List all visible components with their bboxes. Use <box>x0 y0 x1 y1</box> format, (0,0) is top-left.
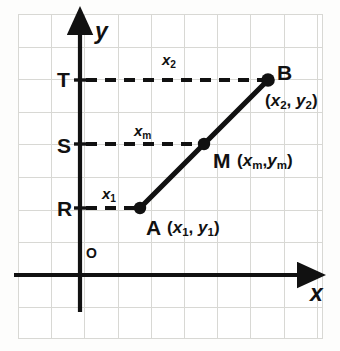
point-coords-M: (xm,ym) <box>237 152 293 169</box>
coordinate-geometry-figure: y x O T S R B M A (x2, y2) (xm,ym) (x1, … <box>0 0 340 351</box>
coord-x-sub: m <box>252 159 262 171</box>
coord-x-base: x <box>243 151 252 170</box>
dashed-label-sub: m <box>142 130 151 141</box>
dashed-run-label-x1: x1 <box>102 186 116 201</box>
y-tick-label-R: R <box>57 198 72 219</box>
y-axis-label: y <box>95 20 108 43</box>
point-label-A: A <box>146 217 161 238</box>
y-tick-label-S: S <box>57 135 71 156</box>
point-A <box>134 202 146 214</box>
coord-y-base: y <box>267 151 276 170</box>
y-tick-label-T: T <box>57 69 70 90</box>
point-B <box>261 73 275 87</box>
coord-x-sub: 1 <box>182 226 188 238</box>
coord-y-sub: m <box>277 159 287 171</box>
coord-comma: , <box>287 91 296 110</box>
dashed-run-label-x2: x2 <box>162 52 176 67</box>
origin-label: O <box>86 246 97 260</box>
coord-y-sub: 1 <box>207 226 213 238</box>
point-coords-B: (x2, y2) <box>265 92 318 109</box>
point-label-B: B <box>277 62 292 83</box>
coord-y-sub: 2 <box>305 99 311 111</box>
x-axis-label: x <box>310 282 323 305</box>
paren-close: ) <box>214 218 220 237</box>
dashed-run-label-xm: xm <box>134 123 151 138</box>
point-M <box>198 138 210 150</box>
coord-x-base: x <box>173 218 182 237</box>
coord-x-sub: 2 <box>280 99 286 111</box>
paren-close: ) <box>287 151 293 170</box>
coord-comma: , <box>189 218 198 237</box>
paren-close: ) <box>312 91 318 110</box>
dashed-label-sub: 2 <box>170 59 176 70</box>
coord-x-base: x <box>271 91 280 110</box>
dashed-label-sub: 1 <box>110 193 116 204</box>
point-coords-A: (x1, y1) <box>167 219 220 236</box>
point-label-M: M <box>213 150 231 171</box>
